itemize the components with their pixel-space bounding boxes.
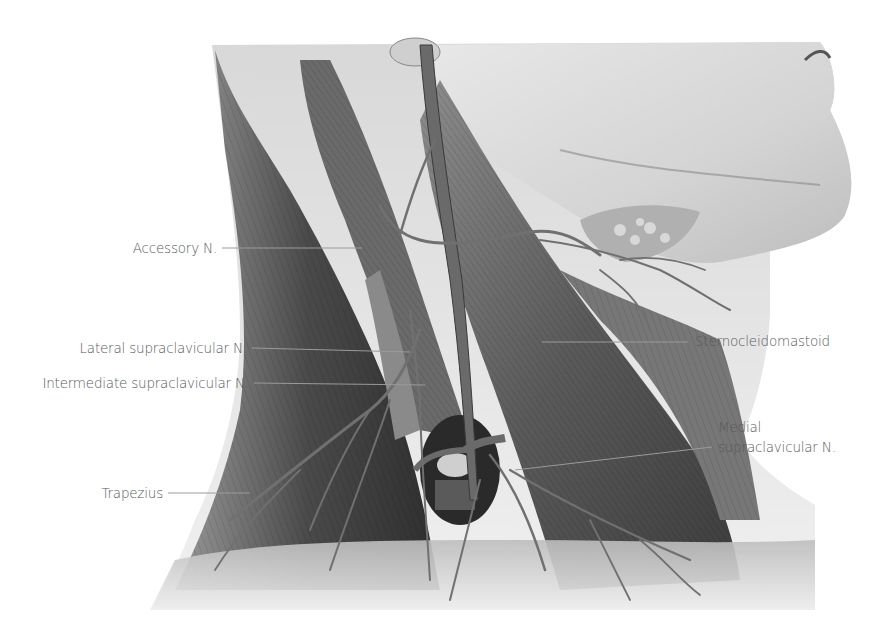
chest-clavicle-region — [150, 540, 815, 610]
label-intermediate-supraclavicular-nerve: Intermediate supraclavicular N. — [42, 375, 249, 392]
supraclavicular-fossa — [420, 415, 500, 525]
label-lateral-supraclavicular-nerve: Lateral supraclavicular N. — [80, 340, 247, 357]
anatomy-illustration — [0, 0, 871, 627]
label-medial-supraclavicular-nerve-line2: supraclavicular N. — [718, 439, 836, 456]
label-trapezius: Trapezius — [101, 485, 163, 502]
label-sternocleidomastoid: Sternocleidomastoid — [695, 333, 830, 350]
label-accessory-nerve: Accessory N. — [133, 240, 217, 257]
label-medial-supraclavicular-nerve-line1: Medial — [718, 419, 761, 436]
